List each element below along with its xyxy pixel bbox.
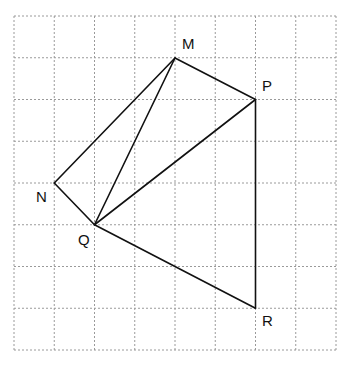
figure-canvas: MPNQR [0,0,352,372]
geometry-figure: MPNQR [0,0,352,372]
segment-M-N [54,58,175,183]
vertex-label-q: Q [78,231,90,248]
vertex-label-n: N [36,188,47,205]
vertex-label-m: M [182,35,195,52]
segment-N-Q [54,183,94,225]
vertex-label-r: R [262,312,273,329]
grid-lines [14,16,336,350]
vertex-label-p: P [262,77,272,94]
